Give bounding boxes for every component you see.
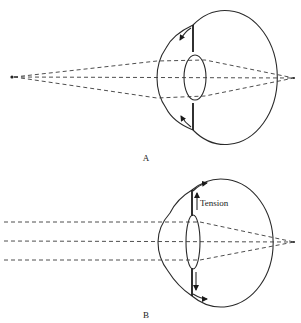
ray-bottom-a [14,77,294,98]
panel-caption-a: A [143,153,150,163]
tension-label: Tension [200,198,229,208]
cornea-b [158,190,192,296]
ray-top-b [4,222,294,242]
focal-point-a [293,77,295,79]
focal-point-b [293,241,295,243]
ray-top-a [14,60,294,78]
point-source-a [10,75,13,78]
panel-caption-b: B [143,310,149,320]
ciliary-arrow-upper-a [180,28,191,40]
ray-center-a [14,77,294,78]
ray-bottom-b [4,242,294,260]
panel-a: A [10,10,295,163]
ray-center-b [4,241,294,242]
panel-b: Tension B [4,179,295,320]
eye-accommodation-figure: A Tension B [0,0,301,323]
lens-a [184,55,206,100]
